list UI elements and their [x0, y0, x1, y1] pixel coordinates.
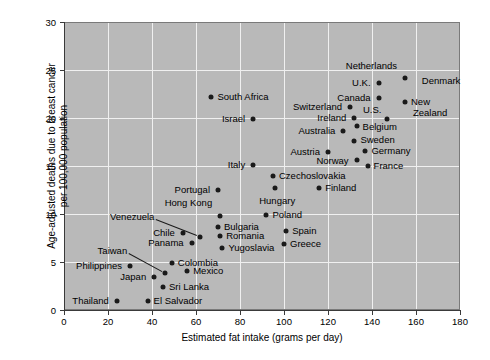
y-tick: [60, 262, 64, 263]
scatter-plot-figure: Estimated fat intake (grams per day) Age…: [0, 0, 490, 360]
data-point[interactable]: [403, 99, 408, 104]
data-point[interactable]: [114, 299, 119, 304]
data-point[interactable]: [145, 299, 150, 304]
data-point[interactable]: [152, 275, 157, 280]
x-axis-title: Estimated fat intake (grams per day): [64, 332, 460, 343]
y-tick: [60, 70, 64, 71]
point-label: Netherlands: [346, 61, 397, 71]
data-point[interactable]: [282, 241, 287, 246]
x-tick: [108, 311, 109, 315]
y-tick-label: 15: [45, 161, 56, 172]
data-point[interactable]: [376, 95, 381, 100]
point-label: Taiwan: [98, 246, 128, 256]
point-label: Denmark: [422, 76, 461, 86]
data-point[interactable]: [354, 158, 359, 163]
data-point[interactable]: [365, 164, 370, 169]
data-point[interactable]: [218, 234, 223, 239]
point-label: Sweden: [360, 135, 394, 145]
point-label: Colombia: [178, 258, 218, 268]
data-point[interactable]: [218, 213, 223, 218]
x-tick-label: 20: [103, 316, 114, 327]
point-label: U.S.: [363, 105, 381, 115]
point-label: France: [374, 161, 404, 171]
point-label: Hungary: [259, 196, 295, 206]
y-tick: [60, 22, 64, 23]
data-point[interactable]: [385, 116, 390, 121]
data-point[interactable]: [317, 186, 322, 191]
y-tick-label: 30: [45, 17, 56, 28]
point-label: Czechoslovakia: [279, 171, 346, 181]
point-label: Thailand: [72, 296, 108, 306]
x-tick: [372, 311, 373, 315]
x-tick-label: 140: [364, 316, 380, 327]
x-tick: [328, 311, 329, 315]
x-tick-label: 0: [61, 316, 66, 327]
x-tick: [460, 311, 461, 315]
point-label: Finland: [325, 183, 356, 193]
data-point[interactable]: [163, 270, 168, 275]
data-point[interactable]: [273, 186, 278, 191]
point-label: South Africa: [217, 92, 268, 102]
data-point[interactable]: [185, 268, 190, 273]
x-tick-label: 120: [320, 316, 336, 327]
x-tick-label: 40: [147, 316, 158, 327]
data-point[interactable]: [161, 284, 166, 289]
data-point[interactable]: [251, 163, 256, 168]
data-point[interactable]: [271, 173, 276, 178]
y-axis-title: Age-adjusted deaths due to breast cancer…: [46, 12, 70, 300]
x-tick-label: 160: [408, 316, 424, 327]
y-tick: [60, 214, 64, 215]
data-point[interactable]: [216, 188, 221, 193]
data-point[interactable]: [198, 235, 203, 240]
point-label: Panama: [148, 238, 183, 248]
point-label: Germany: [371, 146, 410, 156]
y-tick-label: 5: [51, 257, 56, 268]
data-point[interactable]: [352, 139, 357, 144]
data-point[interactable]: [403, 75, 408, 80]
point-label: Israel: [222, 114, 245, 124]
point-label: Bulgaria: [224, 222, 259, 232]
point-label: Poland: [272, 210, 302, 220]
point-label: Ireland: [317, 113, 346, 123]
data-point[interactable]: [220, 245, 225, 250]
point-label: Spain: [292, 226, 316, 236]
y-tick-label: 0: [51, 305, 56, 316]
x-tick: [240, 311, 241, 315]
point-label: Switzerland: [293, 102, 342, 112]
x-tick-label: 100: [276, 316, 292, 327]
data-point[interactable]: [251, 116, 256, 121]
gridline-horizontal: [65, 262, 459, 263]
data-point[interactable]: [128, 263, 133, 268]
x-tick-label: 180: [452, 316, 468, 327]
point-label: Canada: [337, 93, 370, 103]
data-point[interactable]: [169, 260, 174, 265]
point-label: Australia: [298, 126, 335, 136]
y-tick-label: 10: [45, 209, 56, 220]
x-axis-line: [64, 310, 461, 311]
data-point[interactable]: [209, 94, 214, 99]
point-label: Sri Lanka: [169, 282, 209, 292]
gridline-horizontal: [65, 70, 459, 71]
data-point[interactable]: [216, 225, 221, 230]
data-point[interactable]: [363, 148, 368, 153]
y-tick: [60, 166, 64, 167]
data-point[interactable]: [354, 123, 359, 128]
point-label: Norway: [316, 156, 348, 166]
point-label: Yugoslavia: [228, 243, 274, 253]
x-tick: [416, 311, 417, 315]
point-label: Belgium: [363, 122, 397, 132]
data-point[interactable]: [352, 116, 357, 121]
data-point[interactable]: [326, 149, 331, 154]
data-point[interactable]: [376, 81, 381, 86]
data-point[interactable]: [341, 129, 346, 134]
point-label: Hong Kong: [165, 198, 213, 208]
data-point[interactable]: [189, 240, 194, 245]
x-tick: [152, 311, 153, 315]
data-point[interactable]: [180, 231, 185, 236]
point-label: New: [411, 97, 430, 107]
data-point[interactable]: [264, 212, 269, 217]
data-point[interactable]: [348, 105, 353, 110]
data-point[interactable]: [284, 229, 289, 234]
x-tick: [64, 311, 65, 315]
point-label: Chile: [153, 228, 175, 238]
